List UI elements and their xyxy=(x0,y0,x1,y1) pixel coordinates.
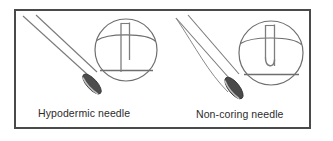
figure-canvas: Hypodermic needle xyxy=(0,0,333,141)
non-coring-label: Non-coring needle xyxy=(196,108,284,120)
needle-comparison-figure: Hypodermic needle xyxy=(0,0,333,141)
hypodermic-label: Hypodermic needle xyxy=(38,107,130,119)
